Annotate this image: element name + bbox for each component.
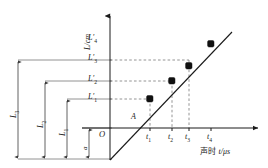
x-tick-label-2: t2 [168, 133, 173, 143]
diagram-canvas [0, 0, 268, 168]
x-tick-label-4-sub: 4 [209, 137, 212, 143]
y-tick-label-2: L′2 [88, 75, 97, 85]
y-tick-label-1: L′1 [88, 93, 97, 103]
solid-guide-lines [18, 60, 112, 159]
y-tick-label-3: L′3 [88, 54, 97, 64]
y-tick-label-4-sub: 4 [94, 38, 97, 44]
dimension-arrows [18, 62, 89, 157]
data-point-1 [147, 96, 153, 102]
dimension-label-L3-base: L [9, 114, 18, 118]
dimension-label-L2-base: L [36, 124, 45, 128]
data-points [147, 41, 214, 102]
intercept-label-A: A [131, 113, 136, 121]
dimension-label-L1-base: L [58, 132, 67, 136]
dimension-label-L2-sub: 2 [41, 121, 47, 124]
y-tick-label-4: L′4 [88, 34, 97, 44]
dimension-label-L1-sub: 1 [63, 129, 69, 132]
dimension-label-a: a [82, 147, 89, 151]
x-tick-label-3-sub: 3 [187, 137, 190, 143]
y-tick-label-1-sub: 1 [94, 97, 97, 103]
x-axis-title-unit: t/μs [219, 147, 231, 156]
ultrasonic-calibration-diagram: L/cm L′4 L′3 L′2 L′1 t1 t2 t3 t4 声时 t/μs… [0, 0, 268, 168]
origin-label: O [99, 130, 105, 139]
x-tick-label-3: t3 [185, 133, 190, 143]
x-tick-label-1: t1 [146, 133, 151, 143]
dimension-label-L1: L1 [59, 129, 69, 136]
x-tick-label-1-sub: 1 [148, 137, 151, 143]
dimension-label-L3-sub: 3 [14, 111, 20, 114]
data-point-3 [186, 63, 192, 69]
dimension-label-L3: L3 [10, 111, 20, 118]
data-point-2 [169, 78, 175, 84]
x-axis-title-text: 声时 [200, 147, 219, 156]
y-tick-label-3-sub: 3 [94, 58, 97, 64]
dimension-label-L2: L2 [37, 121, 47, 128]
x-tick-label-2-sub: 2 [170, 137, 173, 143]
x-axis-title: 声时 t/μs [200, 148, 230, 156]
y-tick-label-2-sub: 2 [94, 79, 97, 85]
data-point-4 [208, 41, 214, 47]
x-tick-label-4: t4 [207, 133, 212, 143]
